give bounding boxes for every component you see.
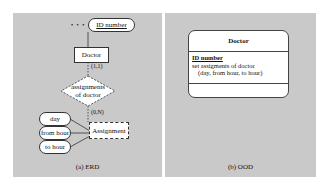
assignment-weak-entity: Assignment — [89, 122, 129, 139]
erd-caption: (a) ERD — [13, 163, 162, 171]
class-attributes: ID number set assigments of doctor (day,… — [189, 52, 288, 84]
relationship-label-line2: of doctor — [61, 91, 115, 99]
to-hour-link — [70, 136, 90, 147]
attribute-to-hour: to hour — [39, 140, 71, 154]
doctor-entity-label: Doctor — [82, 51, 101, 59]
doctor-class-box: Doctor ID number set assigments of docto… — [188, 30, 289, 98]
relationship-label: assignments of doctor — [61, 83, 115, 99]
key-attribute-label: ID number — [96, 21, 127, 29]
attribute-day: day — [39, 112, 71, 126]
key-attribute-oval: ID number — [88, 18, 135, 32]
ellipsis: • • • — [71, 22, 85, 28]
erd-panel: • • • ID number Doctor (1,1) assignments… — [13, 13, 162, 177]
assignment-label: Assignment — [92, 127, 125, 135]
day-link — [70, 119, 90, 131]
ood-panel: Doctor ID number set assigments of docto… — [165, 13, 316, 177]
attribute-day-label: day — [50, 115, 60, 123]
doctor-entity: Doctor — [74, 47, 109, 63]
ood-caption: (b) OOD — [165, 163, 316, 171]
relationship-label-line1: assignments — [61, 83, 115, 91]
attribute-from-hour-label: from hour — [41, 129, 69, 137]
cardinality-top: (1,1) — [91, 63, 103, 69]
class-name: Doctor — [189, 31, 288, 52]
class-attribute-line2: (day, from hour, to hour) — [192, 69, 285, 77]
attribute-to-hour-label: to hour — [45, 143, 65, 151]
attribute-from-hour: from hour — [39, 126, 71, 140]
class-attribute-line1: set assigments of doctor — [192, 62, 285, 70]
cardinality-bottom: (0,N) — [91, 109, 104, 115]
class-key-attribute: ID number — [192, 54, 285, 62]
